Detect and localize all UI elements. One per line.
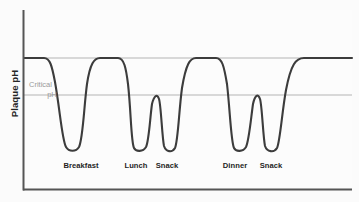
x-axis-tick-label: Dinner [223,161,247,170]
chart-figure: Plaque pH Frequent Consumption Critical … [0,0,359,202]
plot-area [0,0,359,202]
x-axis-tick-label: Snack [156,161,179,170]
critical-ph-annotation-line1: Critical [28,80,74,90]
x-axis-tick-label: Breakfast [63,161,98,170]
x-axis-tick-label: Lunch [124,161,147,170]
critical-ph-annotation-line2: pH [28,90,74,100]
x-axis-tick-label: Snack [260,161,283,170]
critical-ph-annotation: Critical pH [28,80,74,99]
